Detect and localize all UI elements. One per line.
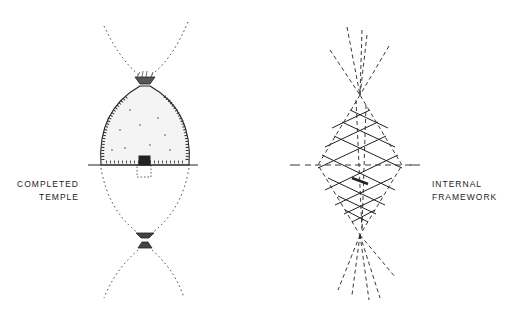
completed-temple-label: COMPLETED TEMPLE: [17, 178, 79, 204]
label-line: TEMPLE: [17, 191, 79, 204]
completed-temple-drawing: [88, 22, 198, 298]
finial-top: [135, 77, 155, 84]
diagram-canvas: [0, 0, 521, 315]
label-line: COMPLETED: [17, 178, 79, 191]
finial-bottom: [136, 233, 154, 238]
label-line: INTERNAL: [432, 178, 497, 191]
temple-door: [139, 156, 150, 165]
temple-dome: [101, 86, 190, 165]
label-line: FRAMEWORK: [432, 191, 497, 204]
internal-framework-drawing: [290, 27, 420, 300]
internal-framework-label: INTERNAL FRAMEWORK: [432, 178, 497, 204]
